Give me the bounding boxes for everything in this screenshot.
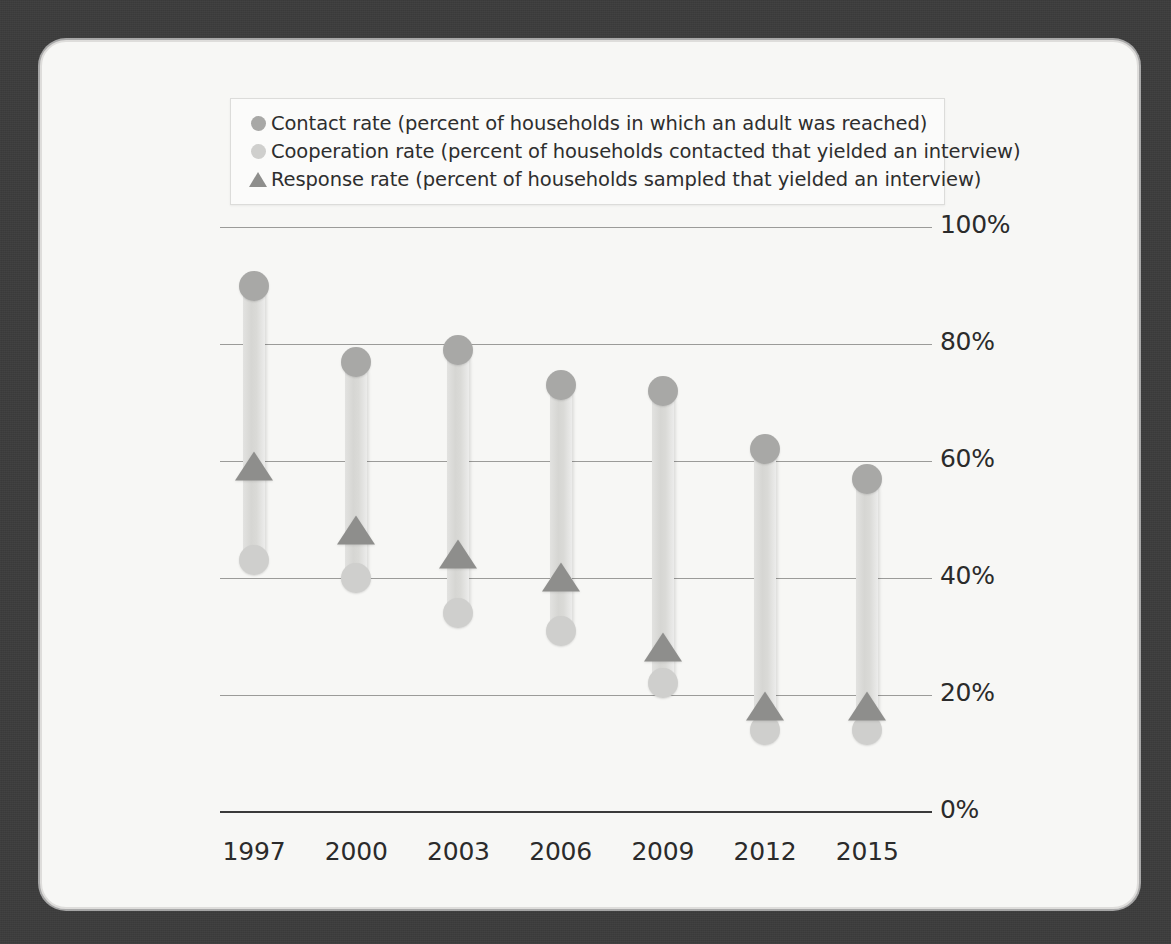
gridline-0: [220, 811, 904, 813]
contact-rate-circle-icon: [245, 116, 271, 131]
x-axis-tick-label: 2006: [529, 837, 592, 866]
y-tick-stub: [904, 461, 932, 462]
y-axis-tick-label: 80%: [940, 327, 995, 356]
range-bar: [243, 286, 265, 561]
y-tick-stub: [904, 578, 932, 579]
cooperation-rate-point: [546, 616, 576, 646]
legend-label-cooperation-rate: Cooperation rate (percent of households …: [271, 140, 1020, 163]
cooperation-rate-point: [443, 598, 473, 628]
x-axis-tick-label: 2000: [325, 837, 388, 866]
x-axis-tick-label: 2012: [734, 837, 797, 866]
x-axis-tick-label: 2003: [427, 837, 490, 866]
legend-label-contact-rate: Contact rate (percent of households in w…: [271, 112, 927, 135]
contact-rate-point: [239, 271, 269, 301]
y-axis-tick-label: 40%: [940, 561, 995, 590]
chart-card: Contact rate (percent of households in w…: [40, 40, 1139, 909]
contact-rate-point: [852, 464, 882, 494]
cooperation-rate-point: [648, 668, 678, 698]
response-rate-point: [235, 452, 273, 481]
y-axis-tick-label: 60%: [940, 444, 995, 473]
x-axis-tick-label: 2009: [631, 837, 694, 866]
contact-rate-point: [750, 434, 780, 464]
y-tick-stub: [904, 695, 932, 696]
x-axis-tick-label: 1997: [223, 837, 286, 866]
y-tick-stub: [904, 227, 932, 228]
cooperation-rate-circle-icon: [245, 144, 271, 159]
chart-legend: Contact rate (percent of households in w…: [230, 98, 945, 205]
y-axis-tick-label: 20%: [940, 678, 995, 707]
response-rate-point: [644, 633, 682, 662]
y-axis-tick-label: 100%: [940, 210, 1010, 239]
y-axis-tick-label: 0%: [940, 795, 979, 824]
x-axis-tick-label: 2015: [836, 837, 899, 866]
legend-item-response-rate: Response rate (percent of households sam…: [245, 165, 930, 193]
legend-item-contact-rate: Contact rate (percent of households in w…: [245, 109, 930, 137]
legend-item-cooperation-rate: Cooperation rate (percent of households …: [245, 137, 930, 165]
gridline-100: [220, 227, 904, 228]
gridline-80: [220, 344, 904, 345]
response-rate-point: [848, 691, 886, 720]
contact-rate-point: [443, 335, 473, 365]
response-rate-point: [337, 516, 375, 545]
y-tick-stub: [904, 811, 932, 813]
range-bar: [550, 385, 572, 631]
plot-area: Contact rate (percent of households in w…: [42, 42, 1137, 907]
response-rate-point: [542, 563, 580, 592]
legend-label-response-rate: Response rate (percent of households sam…: [271, 168, 981, 191]
cooperation-rate-point: [341, 563, 371, 593]
response-rate-point: [439, 539, 477, 568]
range-bar: [345, 362, 367, 578]
contact-rate-point: [546, 370, 576, 400]
y-tick-stub: [904, 344, 932, 345]
cooperation-rate-point: [239, 545, 269, 575]
contact-rate-point: [648, 376, 678, 406]
range-bar: [754, 449, 776, 730]
contact-rate-point: [341, 347, 371, 377]
gridline-20: [220, 695, 904, 696]
response-rate-triangle-icon: [245, 172, 271, 187]
range-bar: [447, 350, 469, 613]
response-rate-point: [746, 691, 784, 720]
